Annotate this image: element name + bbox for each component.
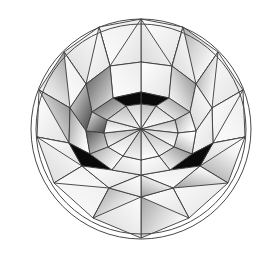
diamond-diagram — [0, 0, 268, 256]
figure-canvas: Round Brilliant Cut Diamond - Crown View — [0, 0, 268, 256]
